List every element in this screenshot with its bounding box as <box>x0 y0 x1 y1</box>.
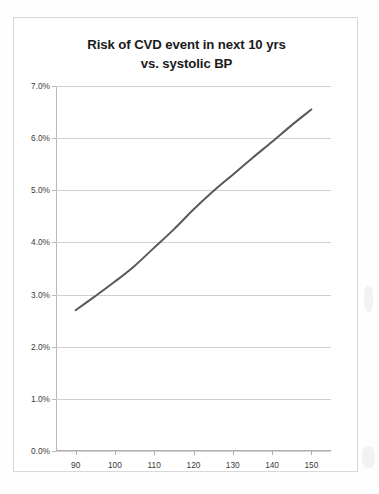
y-tick-label: 6.0% <box>31 133 50 143</box>
y-tick-label: 2.0% <box>31 342 50 352</box>
x-tick-label: 90 <box>71 460 80 470</box>
chart-title-line-1: Risk of CVD event in next 10 yrs <box>87 37 285 52</box>
scan-artifact-upper <box>364 286 373 312</box>
chart-container: Risk of CVD event in next 10 yrs vs. sys… <box>13 17 358 472</box>
x-tick-label: 120 <box>187 460 201 470</box>
y-tick-label: 4.0% <box>31 237 50 247</box>
x-tick-mark-130 <box>233 451 234 455</box>
series-line-cvd-risk <box>56 86 331 451</box>
x-tick-mark-140 <box>272 451 273 455</box>
scanned-page: Risk of CVD event in next 10 yrs vs. sys… <box>0 0 379 494</box>
x-tick-label: 100 <box>108 460 122 470</box>
x-tick-mark-100 <box>115 451 116 455</box>
y-tick-label: 3.0% <box>31 290 50 300</box>
x-tick-label: 140 <box>265 460 279 470</box>
x-tick-label: 130 <box>226 460 240 470</box>
x-tick-mark-150 <box>311 451 312 455</box>
y-tick-label: 1.0% <box>31 394 50 404</box>
x-tick-mark-120 <box>194 451 195 455</box>
y-tick-label: 0.0% <box>31 446 50 456</box>
y-tick-mark-0.0% <box>52 451 56 452</box>
y-tick-label: 7.0% <box>31 81 50 91</box>
chart-title-line-2: vs. systolic BP <box>14 54 359 73</box>
x-tick-mark-110 <box>154 451 155 455</box>
x-tick-label: 150 <box>304 460 318 470</box>
series-path-cvd-risk <box>76 109 312 310</box>
plot-area: 0.0%1.0%2.0%3.0%4.0%5.0%6.0%7.0% 9010011… <box>56 86 331 451</box>
chart-title: Risk of CVD event in next 10 yrs vs. sys… <box>14 35 359 73</box>
scan-artifact-lower <box>362 446 375 468</box>
x-tick-label: 110 <box>148 460 161 470</box>
y-tick-label: 5.0% <box>31 185 50 195</box>
x-tick-mark-90 <box>76 451 77 455</box>
